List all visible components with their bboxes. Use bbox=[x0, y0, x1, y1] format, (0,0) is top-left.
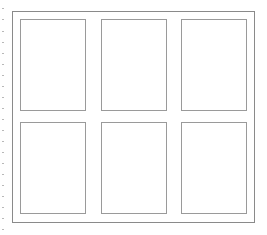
margin-dot bbox=[2, 42, 4, 43]
margin-dot bbox=[2, 97, 4, 98]
panel-6 bbox=[181, 122, 247, 214]
panel-1 bbox=[20, 19, 86, 111]
margin-dot bbox=[2, 64, 4, 65]
margin-dot bbox=[2, 108, 4, 109]
panel-2 bbox=[101, 19, 167, 111]
panel-3 bbox=[181, 19, 247, 111]
margin-dot bbox=[2, 163, 4, 164]
margin-dot bbox=[2, 229, 4, 230]
panel-4 bbox=[20, 122, 86, 214]
margin-dot bbox=[2, 152, 4, 153]
panel-5 bbox=[101, 122, 167, 214]
margin-dot bbox=[2, 130, 4, 131]
margin-dot bbox=[2, 86, 4, 87]
margin-dot bbox=[2, 207, 4, 208]
margin-dot bbox=[2, 75, 4, 76]
margin-dot bbox=[2, 218, 4, 219]
margin-dot bbox=[2, 185, 4, 186]
dotted-margin-guide bbox=[2, 0, 5, 235]
margin-dot bbox=[2, 31, 4, 32]
margin-dot bbox=[2, 53, 4, 54]
margin-dot bbox=[2, 174, 4, 175]
margin-dot bbox=[2, 19, 4, 20]
margin-dot bbox=[2, 8, 4, 9]
margin-dot bbox=[2, 119, 4, 120]
margin-dot bbox=[2, 196, 4, 197]
margin-dot bbox=[2, 141, 4, 142]
